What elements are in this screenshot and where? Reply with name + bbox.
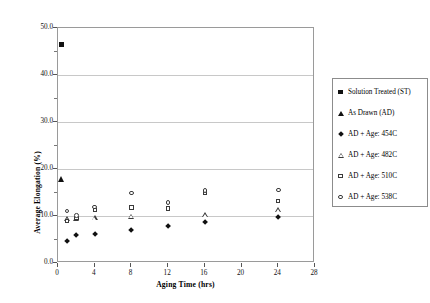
data-point (202, 212, 208, 217)
legend-item-label: AD + Age: 538C (348, 193, 397, 201)
x-tick-label: 0 (45, 269, 69, 277)
y-tick-label: 10.0 (19, 211, 53, 219)
x-tick-label: 24 (265, 269, 289, 277)
data-point (65, 209, 70, 214)
triangle-inner (129, 215, 133, 218)
y-axis-title-wrapper: Average Elongation (%) (14, 60, 28, 230)
y-tick-label: 40.0 (19, 70, 53, 78)
triangle-inner (92, 217, 96, 220)
triangle-inner (339, 154, 343, 157)
x-tick-label: 28 (302, 269, 326, 277)
data-point (92, 231, 98, 237)
x-tick-mark (277, 263, 278, 267)
data-point (166, 200, 171, 205)
legend-item[interactable]: AD + Age: 538C (337, 191, 397, 203)
x-tick-mark (94, 263, 95, 267)
data-point (58, 176, 64, 182)
data-point (65, 219, 69, 223)
y-tick-label: 30.0 (19, 117, 53, 125)
legend-item-label: Solution Treated (ST) (348, 88, 411, 96)
data-point (73, 232, 79, 238)
x-tick-mark (130, 263, 131, 267)
y-axis-title: Average Elongation (%) (33, 108, 42, 278)
data-point (166, 206, 170, 210)
legend-marker-icon (337, 194, 344, 201)
legend-item[interactable]: Solution Treated (ST) (337, 86, 411, 98)
legend-item[interactable]: AD + Age: 454C (337, 128, 397, 140)
triangle-inner (276, 209, 280, 212)
data-point (64, 238, 70, 244)
data-point (59, 42, 64, 47)
triangle-inner (203, 214, 207, 217)
data-point (202, 220, 208, 226)
legend-item-label: AD + Age: 510C (348, 172, 397, 180)
data-point (74, 213, 79, 218)
legend-item-label: AD + Age: 482C (348, 151, 397, 159)
legend-marker-icon (337, 173, 344, 180)
data-point (276, 199, 280, 203)
gridline (58, 122, 313, 123)
data-point (128, 214, 134, 219)
y-tick-label: 50.0 (19, 23, 53, 31)
x-tick-mark (314, 263, 315, 267)
data-point (165, 223, 171, 229)
x-tick-mark (204, 263, 205, 267)
gridline (58, 169, 313, 170)
x-tick-mark (167, 263, 168, 267)
data-point (276, 188, 281, 193)
x-tick-label: 16 (192, 269, 216, 277)
data-point (203, 188, 208, 193)
x-tick-mark (241, 263, 242, 267)
data-point (129, 191, 134, 196)
legend-item[interactable]: As Drawn (AD) (337, 107, 394, 119)
data-point (128, 227, 134, 233)
data-point (275, 214, 281, 220)
y-tick-label: 0.0 (19, 258, 53, 266)
x-tick-label: 4 (82, 269, 106, 277)
chart-container: Average Elongation (%) 0.010.020.030.040… (0, 0, 430, 303)
chart-legend: Solution Treated (ST)As Drawn (AD)AD + A… (332, 78, 428, 207)
x-tick-label: 12 (155, 269, 179, 277)
x-axis-title: Aging Time (hrs) (57, 280, 314, 289)
legend-item-label: As Drawn (AD) (348, 109, 394, 117)
legend-marker-icon (337, 89, 344, 96)
plot-area (57, 27, 314, 262)
y-tick-label: 20.0 (19, 164, 53, 172)
legend-marker-icon (337, 152, 344, 159)
legend-item-label: AD + Age: 454C (348, 130, 397, 138)
data-point (92, 215, 98, 220)
legend-item[interactable]: AD + Age: 510C (337, 170, 397, 182)
data-point (129, 205, 133, 209)
legend-item[interactable]: AD + Age: 482C (337, 149, 397, 161)
legend-marker-icon (337, 131, 344, 138)
data-point (275, 207, 281, 212)
x-tick-label: 20 (229, 269, 253, 277)
x-tick-mark (57, 263, 58, 267)
gridline (58, 75, 313, 76)
legend-marker-icon (337, 110, 344, 117)
x-tick-label: 8 (118, 269, 142, 277)
